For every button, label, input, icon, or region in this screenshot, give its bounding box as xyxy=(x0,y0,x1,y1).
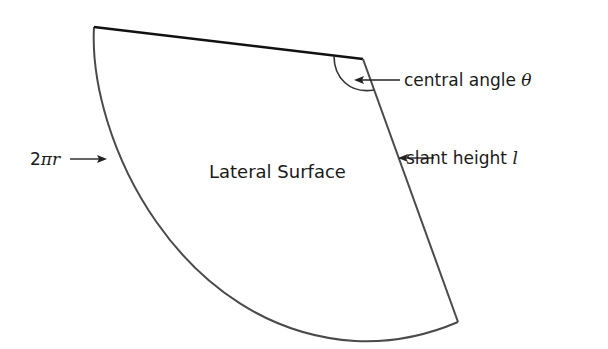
arc-length-arrow xyxy=(70,155,107,163)
r-symbol: r xyxy=(52,149,61,169)
sector-diagram: Lateral Surface central angle θ slant he… xyxy=(0,0,608,349)
central-angle-arrow xyxy=(354,76,400,84)
central-angle-label: central angle θ xyxy=(404,70,532,90)
theta-symbol: θ xyxy=(521,70,531,90)
slant-height-label: slant height l xyxy=(406,148,518,168)
pi-symbol: π xyxy=(40,149,53,169)
sector-top-radius xyxy=(94,27,363,59)
l-symbol: l xyxy=(512,148,517,168)
arc-length-two: 2 xyxy=(30,149,41,169)
lateral-surface-label: Lateral Surface xyxy=(209,161,346,182)
arc-length-label: 2πr xyxy=(30,149,61,169)
sector-slant-radius xyxy=(363,59,458,322)
slant-height-text: slant height xyxy=(406,148,512,168)
central-angle-text: central angle xyxy=(404,70,521,90)
